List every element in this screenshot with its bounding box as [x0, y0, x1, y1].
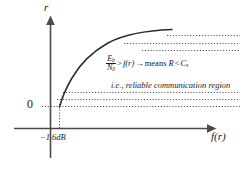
denominator-subscript: 0	[112, 66, 115, 72]
formula-annotation: Eb N0 >f(r)→means R<Cs	[106, 55, 246, 73]
numerator-subscript: b	[112, 57, 115, 63]
less-than-operator: <	[174, 58, 181, 68]
fraction-denominator: N0	[106, 63, 116, 72]
dotted-guide-lines-lower	[42, 93, 240, 107]
y-axis-label: r	[44, 2, 48, 13]
arrow-icon: →	[134, 58, 145, 68]
x-axis-label: f(r)	[211, 131, 226, 142]
eb-n0-fraction: Eb N0	[106, 55, 116, 73]
origin-label: 0	[27, 98, 33, 110]
annotation-block: Eb N0 >f(r)→means R<Cs	[106, 55, 246, 73]
rate-symbol: R	[169, 58, 174, 68]
dotted-guide-lines-upper	[124, 36, 240, 51]
means-word: means	[145, 58, 167, 68]
x-axis-tick-label: −1.6dB	[40, 133, 66, 142]
capacity-region-figure: r f(r) 0 −1.6dB Eb N0 >f(r)→means R<Cs i…	[0, 0, 248, 169]
capacity-subscript: s	[186, 62, 188, 68]
function-symbol: f(r)	[123, 58, 134, 68]
y-axis-arrowhead	[46, 16, 55, 26]
region-annotation: i.e., reliable communication region	[111, 80, 230, 90]
fraction-numerator: Eb	[106, 55, 116, 63]
comparison-operator: >	[116, 58, 123, 68]
